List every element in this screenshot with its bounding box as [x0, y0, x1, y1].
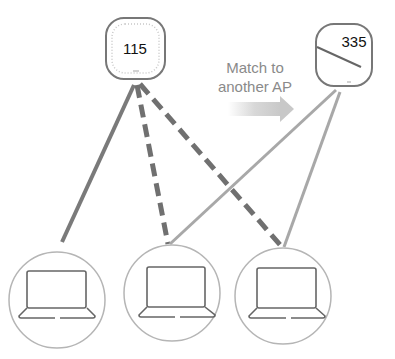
dashed-link-ap115-client2 — [137, 85, 168, 244]
annotation-line-2: another AP — [200, 77, 310, 96]
solid-link-ap115-client1 — [62, 85, 134, 242]
client-laptop-2 — [124, 245, 220, 341]
annotation-text: Match to another AP — [200, 58, 310, 96]
arrow-icon — [228, 96, 294, 122]
ap-335-label: 335 — [334, 33, 374, 50]
ap-115-label: 115 — [115, 40, 155, 57]
client-laptop-3 — [235, 248, 331, 344]
annotation-line-1: Match to — [200, 58, 310, 77]
light-link-ap335-client3 — [284, 92, 340, 247]
client-laptop-1 — [9, 252, 105, 348]
diagram-canvas — [0, 0, 395, 359]
